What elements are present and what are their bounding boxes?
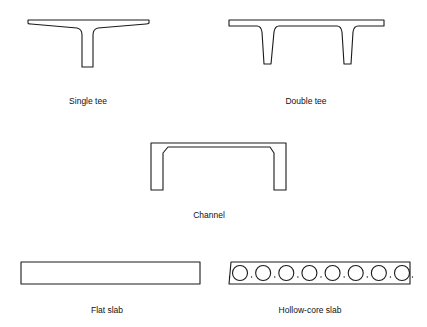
- strand-dot: [343, 276, 344, 277]
- hollow-core-slab-label: Hollow-core slab: [279, 305, 342, 315]
- strand-dot: [274, 276, 275, 277]
- double-tee-shape: [229, 20, 384, 64]
- hollow-core: [279, 266, 294, 281]
- hollow-core: [371, 266, 386, 281]
- single-tee-shape: [28, 20, 149, 67]
- hollow-core: [325, 266, 340, 281]
- channel-label: Channel: [193, 210, 225, 220]
- hollow-core: [233, 266, 248, 281]
- strand-dot: [229, 276, 230, 277]
- hollow-core: [302, 266, 317, 281]
- strand-dot: [390, 276, 391, 277]
- strand-dot: [320, 276, 321, 277]
- flat-slab-label: Flat slab: [91, 305, 123, 315]
- strand-dot: [412, 276, 413, 277]
- hollow-core: [256, 266, 271, 281]
- strand-dot: [367, 276, 368, 277]
- flat-slab-shape: [21, 262, 200, 284]
- precast-sections-diagram: [0, 0, 427, 327]
- double-tee-label: Double tee: [285, 96, 326, 106]
- single-tee-label: Single tee: [69, 96, 107, 106]
- strand-dot: [297, 276, 298, 277]
- channel-shape: [151, 143, 286, 190]
- hollow-core: [395, 266, 410, 281]
- strand-dot: [251, 276, 252, 277]
- hollow-core: [348, 266, 363, 281]
- hollow-core-slab-shape: [229, 262, 413, 284]
